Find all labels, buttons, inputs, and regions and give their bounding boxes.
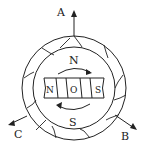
terminal-a-label: A bbox=[56, 6, 66, 19]
stator-pole-north-label: N bbox=[69, 54, 79, 67]
rotation-arrow-bottom bbox=[58, 104, 90, 110]
generator-diagram: A B C N S N O S bbox=[0, 0, 144, 149]
terminal-b-arrow-icon bbox=[130, 123, 137, 130]
terminal-a-arrow-icon bbox=[71, 10, 77, 17]
terminal-b-label: B bbox=[121, 130, 129, 143]
rotor-south-label: S bbox=[95, 85, 101, 95]
terminal-c-arrow-icon bbox=[8, 120, 15, 126]
rotor-center-label: O bbox=[70, 85, 77, 95]
stator-pole-south-label: S bbox=[69, 116, 77, 129]
terminal-c-label: C bbox=[14, 128, 22, 141]
rotation-arrow-top bbox=[58, 68, 90, 74]
rotation-arrow-top-head-icon bbox=[86, 69, 92, 75]
rotor-north-label: N bbox=[46, 85, 54, 95]
terminal-b-lead bbox=[115, 115, 134, 128]
rotation-arrow-bottom-head-icon bbox=[56, 102, 62, 109]
